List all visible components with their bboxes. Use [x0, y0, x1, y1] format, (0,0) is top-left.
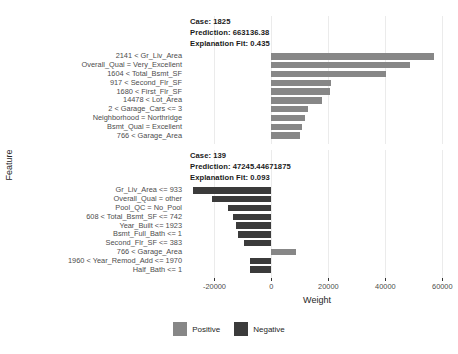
bars-area — [186, 186, 448, 274]
x-tick-label: 60000 — [432, 282, 453, 291]
x-tick-mark — [385, 278, 386, 281]
panel-case-1825: Case: 1825 Prediction: 663136.38 Explana… — [186, 16, 448, 144]
y-tick-label: 2 < Garage_Cars <= 3 — [108, 105, 182, 112]
bar-row — [186, 71, 448, 77]
x-tick-label: 20000 — [318, 282, 339, 291]
panel-fit-label: Explanation Fit: 0.093 — [190, 173, 270, 182]
bar-row — [186, 196, 448, 202]
y-tick-label: 608 < Total_Bsmt_SF <= 742 — [86, 213, 182, 220]
bar — [238, 231, 271, 237]
x-axis-title: Weight — [186, 295, 448, 305]
bar-row — [186, 88, 448, 94]
bar-row — [186, 231, 448, 237]
y-tick-label: Overall_Qual = other — [114, 195, 182, 202]
bar-row — [186, 132, 448, 138]
y-tick-label: 766 < Garage_Area — [117, 132, 182, 139]
bar-row — [186, 124, 448, 130]
bar-row — [186, 258, 448, 264]
x-tick-label: 40000 — [375, 282, 396, 291]
y-tick-label: 766 < Garage_Area — [117, 248, 182, 255]
bar-row — [186, 106, 448, 112]
legend-swatch — [173, 322, 187, 336]
x-tick-mark — [214, 278, 215, 281]
legend-entry: Positive — [173, 322, 220, 336]
panel-case-139: Case: 139 Prediction: 47245.44671875 Exp… — [186, 150, 448, 278]
bar-row — [186, 240, 448, 246]
y-tick-label: Year_Built <= 1923 — [119, 222, 182, 229]
y-tick-label: Gr_Liv_Area <= 933 — [115, 186, 182, 193]
bars-area — [186, 52, 448, 140]
y-tick-label: Bsmt_Qual = Excellent — [107, 123, 182, 130]
y-tick-label: Neighborhood = Northridge — [93, 114, 182, 121]
explanation-weight-chart: Feature 2141 < Gr_Liv_AreaOverall_Qual =… — [0, 0, 458, 354]
bar-row — [186, 115, 448, 121]
bar — [233, 214, 272, 220]
legend-label: Negative — [253, 325, 285, 334]
bar — [271, 88, 329, 94]
bar — [228, 205, 271, 211]
y-tick-labels-panel-0: 2141 < Gr_Liv_AreaOverall_Qual = Very_Ex… — [0, 52, 182, 140]
bar — [250, 258, 272, 264]
bar — [193, 187, 272, 193]
panel-case-label: Case: 139 — [190, 151, 226, 160]
bar — [236, 222, 272, 228]
bar — [271, 97, 321, 103]
bar-row — [186, 53, 448, 59]
x-tick-mark — [442, 278, 443, 281]
bar-row — [186, 214, 448, 220]
y-tick-label: Pool_QC = No_Pool — [115, 204, 182, 211]
bar — [250, 266, 271, 272]
y-tick-label: 14478 < Lot_Area — [123, 96, 182, 103]
bar — [271, 53, 434, 59]
bar — [271, 115, 305, 121]
legend-label: Positive — [192, 325, 220, 334]
bar — [271, 80, 331, 86]
y-tick-label: 1604 < Total_Bsmt_SF — [107, 70, 182, 77]
legend-entry: Negative — [234, 322, 285, 336]
bar — [212, 196, 272, 202]
y-tick-label: 917 < Second_Flr_SF — [110, 79, 182, 86]
panel-fit-label: Explanation Fit: 0.435 — [190, 39, 270, 48]
y-tick-label: 2141 < Gr_Liv_Area — [116, 52, 182, 59]
bar-row — [186, 62, 448, 68]
y-tick-label: Second_Flr_SF <= 383 — [106, 239, 182, 246]
bar-row — [186, 266, 448, 272]
panel-prediction-label: Prediction: 663136.38 — [190, 28, 269, 37]
x-axis: -200000200004000060000 — [186, 278, 448, 294]
panel-prediction-label: Prediction: 47245.44671875 — [190, 162, 291, 171]
x-tick-mark — [328, 278, 329, 281]
x-tick-mark — [271, 278, 272, 281]
legend: PositiveNegative — [0, 322, 458, 336]
x-tick-label: 0 — [269, 282, 273, 291]
y-tick-label: Bsmt_Full_Bath <= 1 — [113, 230, 182, 237]
bar — [271, 124, 302, 130]
bar — [271, 62, 409, 68]
bar — [244, 240, 271, 246]
bar-row — [186, 249, 448, 255]
y-tick-labels-panel-1: Gr_Liv_Area <= 933Overall_Qual = otherPo… — [0, 186, 182, 274]
legend-swatch — [234, 322, 248, 336]
bar-row — [186, 97, 448, 103]
y-tick-label: Half_Bath <= 1 — [133, 266, 182, 273]
bar — [271, 132, 300, 138]
panel-case-label: Case: 1825 — [190, 17, 230, 26]
bar — [271, 249, 295, 255]
y-tick-label: 1680 < First_Flr_SF — [116, 88, 182, 95]
y-tick-label: 1960 < Year_Remod_Add <= 1970 — [68, 257, 182, 264]
bar — [271, 71, 385, 77]
bar-row — [186, 187, 448, 193]
bar — [271, 106, 307, 112]
bar-row — [186, 222, 448, 228]
bar-row — [186, 80, 448, 86]
bar-row — [186, 205, 448, 211]
y-tick-label: Overall_Qual = Very_Excellent — [82, 61, 182, 68]
x-tick-label: -20000 — [203, 282, 226, 291]
